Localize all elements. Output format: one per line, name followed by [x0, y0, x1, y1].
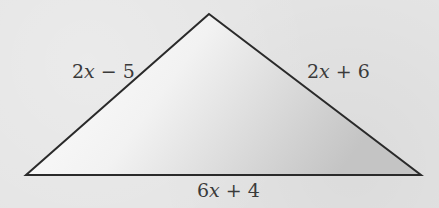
base-variable: x: [209, 179, 220, 201]
right-side-constant: + 6: [330, 60, 370, 82]
right-side-label: 2x + 6: [307, 62, 370, 81]
left-side-constant: − 5: [95, 60, 135, 82]
left-side-label: 2x − 5: [72, 62, 135, 81]
base-constant: + 4: [220, 179, 260, 201]
base-coef: 6: [197, 179, 209, 201]
left-side-coef: 2: [72, 60, 84, 82]
base-label: 6x + 4: [197, 181, 260, 200]
triangle-diagram: 2x − 5 2x + 6 6x + 4: [0, 0, 439, 208]
triangle-svg: [0, 0, 439, 208]
right-side-coef: 2: [307, 60, 319, 82]
right-side-variable: x: [319, 60, 330, 82]
triangle-shape: [26, 14, 421, 175]
left-side-variable: x: [84, 60, 95, 82]
